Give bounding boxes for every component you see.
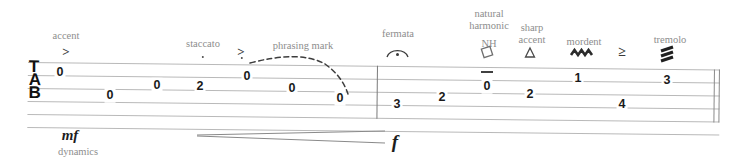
label-phrasing-mark: phrasing mark [273, 40, 333, 52]
final-double-barline-outer [718, 69, 720, 122]
staff-line-3 [28, 88, 720, 96]
tab-number: 4 [617, 97, 628, 112]
tab-number: 0 [335, 91, 346, 106]
staccato-icon [202, 56, 204, 58]
label-natural-harmonic-line2: harmonic [469, 20, 509, 32]
label-mordent: mordent [567, 36, 602, 48]
label-sharp-accent-line1: sharp [521, 22, 544, 34]
tab-clef: T A B [29, 60, 42, 100]
staff-line-6 [27, 127, 719, 135]
tab-clef-letter-b: B [29, 86, 41, 99]
tab-number: 0 [287, 81, 298, 96]
dynamic-f: f [392, 132, 398, 151]
tablature-sheet: T A B 0 0 0 2 0 0 0 3 2 0 2 1 4 3 accent… [0, 0, 737, 164]
staff-line-2 [28, 75, 720, 83]
tab-number: 1 [573, 71, 584, 86]
tab-number: 0 [152, 78, 163, 93]
tab-number: 2 [437, 90, 448, 105]
label-natural-harmonic-abbr: NH [481, 38, 496, 50]
accent-icon: > [62, 45, 69, 58]
label-dynamics: dynamics [58, 146, 98, 158]
label-accent: accent [53, 30, 80, 42]
staff-line-5 [27, 114, 719, 122]
tab-number: 0 [105, 88, 116, 103]
staff-line-1 [28, 62, 720, 70]
tab-number: 3 [392, 97, 403, 112]
label-fermata: fermata [382, 28, 414, 40]
label-tremolo: tremolo [654, 34, 687, 46]
tenuto-accent-icon: ≥ [618, 45, 626, 59]
tab-number: 0 [482, 79, 493, 94]
tab-staff-system [27, 62, 720, 121]
tab-number: 2 [195, 79, 206, 94]
dynamic-mf: mf [62, 128, 79, 143]
tab-number: 0 [242, 69, 253, 84]
label-staccato: staccato [186, 38, 220, 50]
tab-number: 3 [662, 73, 673, 88]
label-sharp-accent-line2: accent [519, 34, 546, 46]
tab-number: 0 [55, 65, 66, 80]
tab-number: 2 [525, 87, 536, 102]
label-natural-harmonic-line1: natural [474, 8, 503, 20]
